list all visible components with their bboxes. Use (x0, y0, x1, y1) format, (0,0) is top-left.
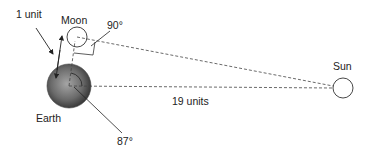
angle-leader (74, 87, 122, 133)
unit-label: 1 unit (16, 9, 42, 20)
right-angle-label: 90° (107, 20, 123, 31)
sun-label: Sun (333, 61, 352, 72)
angle-label: 87° (117, 136, 133, 147)
dashed-lines (69, 37, 333, 88)
distance-label: 19 units (172, 96, 209, 107)
right-angle-leader (91, 31, 110, 46)
sun-circle (333, 78, 353, 98)
unit-pointer (36, 28, 53, 54)
earth-label: Earth (36, 113, 61, 124)
moon-label: Moon (61, 15, 87, 26)
earth-moon-sun-diagram (0, 0, 365, 156)
